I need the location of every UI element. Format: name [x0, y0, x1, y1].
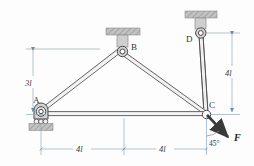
member-b-c — [121, 50, 205, 114]
dimension-horizontal-group — [41, 118, 207, 155]
joint-label-b: B — [131, 42, 137, 52]
force-f-arrow — [207, 115, 228, 137]
member-d-c — [199, 35, 208, 113]
dimension-label-4l-left: 4l — [76, 144, 83, 154]
bracket-neck-b — [117, 35, 128, 47]
angle-label-45: 45° — [209, 139, 220, 148]
member-a-c — [40, 111, 207, 115]
figure-canvas: B D A C F 45° 3l — [0, 0, 254, 166]
roller-3 — [43, 119, 48, 124]
joint-b-pin — [117, 46, 127, 56]
joint-d-pin — [196, 28, 206, 38]
support-d-ceiling — [185, 11, 217, 29]
hatched-plate-d — [185, 11, 217, 18]
dimension-label-4l-right: 4l — [159, 144, 166, 154]
dimension-label-4l-vertical: 4l — [225, 68, 232, 78]
joint-label-a: A — [33, 95, 40, 105]
hatched-plate-b — [106, 28, 140, 35]
joint-label-c: C — [209, 100, 215, 110]
dimension-label-3l: 3l — [24, 78, 32, 88]
force-label-f: F — [233, 132, 241, 143]
member-a-b — [40, 47, 122, 113]
roller-1 — [34, 119, 39, 124]
joint-label-d: D — [186, 34, 193, 44]
roller-2 — [39, 119, 44, 124]
truss-diagram: B D A C F 45° 3l — [0, 0, 254, 166]
